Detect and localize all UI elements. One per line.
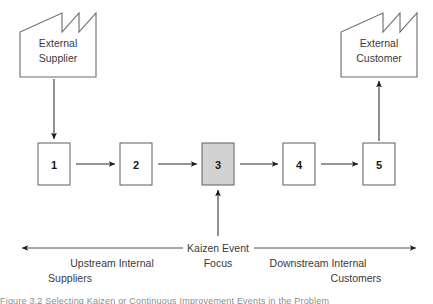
process-step-2[interactable]: 2 [120,143,152,185]
downstream-label-line1: Downstream Internal [270,257,367,269]
external-supplier-node[interactable]: External Supplier [20,13,96,77]
external-supplier-label-line1: External [39,37,78,49]
upstream-label-line1: Upstream Internal [70,257,153,269]
process-step-number: 4 [296,159,303,171]
process-step-4[interactable]: 4 [283,143,315,185]
downstream-internal-customers-label: Downstream Internal Customers [270,257,382,284]
figure-caption: Figure 3.2 Selecting Kaizen or Continuou… [0,297,433,304]
external-customer-label-line2: Customer [356,52,402,64]
external-customer-node[interactable]: External Customer [341,13,417,77]
value-stream-diagram: External Supplier External Customer 1 2 … [0,0,433,304]
figure-canvas: External Supplier External Customer 1 2 … [0,0,433,304]
process-step-3-highlighted[interactable]: 3 [202,143,234,185]
process-step-1[interactable]: 1 [38,143,70,185]
downstream-label-line2: Customers [331,272,382,284]
external-supplier-label-line2: Supplier [39,52,78,64]
process-step-5[interactable]: 5 [363,143,395,185]
process-step-number: 2 [133,159,139,171]
figure-caption-text: Figure 3.2 Selecting Kaizen or Continuou… [0,297,433,304]
process-step-number: 1 [51,159,57,171]
external-customer-label-line1: External [360,37,399,49]
kaizen-focus-line2: Focus [204,257,233,269]
process-step-number: 3 [215,159,221,171]
kaizen-event-focus-label: Kaizen Event Focus [187,242,249,269]
process-step-number: 5 [376,159,382,171]
kaizen-focus-line1: Kaizen Event [187,242,249,254]
upstream-label-line2: Suppliers [48,272,92,284]
upstream-internal-suppliers-label: Upstream Internal Suppliers [48,257,154,284]
